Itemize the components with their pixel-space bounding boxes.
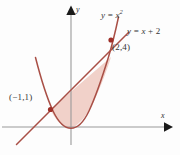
point-label-left: (−1,1)	[9, 93, 33, 102]
parabola-equation-label: y = x2	[101, 9, 123, 20]
graph-canvas	[0, 0, 180, 155]
parabola-exponent: 2	[120, 8, 123, 15]
line-constant: 2	[156, 26, 161, 36]
x-axis-arrowhead-icon	[164, 122, 173, 132]
shaded-region	[51, 57, 112, 128]
line-equals: =	[131, 26, 141, 36]
line-plus-operator: +	[146, 26, 156, 36]
y-axis-label: y	[76, 6, 80, 14]
x-axis-label: x	[161, 112, 165, 120]
point-label-right: (2,4)	[112, 43, 130, 52]
y-axis-arrowhead-icon	[66, 6, 75, 16]
parabola-equals: =	[105, 10, 115, 20]
figure-container: y = x2 y = x + 2 (2,4) (−1,1) y x	[0, 0, 180, 155]
intersection-point-left	[48, 107, 53, 112]
line-equation-label: y = x + 2	[127, 27, 160, 36]
